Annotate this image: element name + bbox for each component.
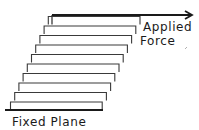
layer-stack <box>11 15 141 110</box>
shear-layer <box>32 55 124 63</box>
shear-layer <box>23 74 115 82</box>
shear-layer <box>44 26 136 34</box>
shear-diagram: Applied Force Fixed Plane <box>0 0 199 130</box>
applied-force-arrow <box>52 11 192 19</box>
shear-layer <box>11 102 103 110</box>
shear-layer <box>48 17 140 25</box>
shear-layer <box>36 45 128 53</box>
fixed-plane-label: Fixed Plane <box>12 116 86 128</box>
shear-layer <box>40 36 132 44</box>
applied-force-label-line1: Applied <box>143 21 192 33</box>
applied-force-label-line2: Force <box>140 35 175 47</box>
shear-layer <box>27 64 119 72</box>
shear-layer <box>15 93 107 101</box>
shear-layer <box>19 83 111 91</box>
stray-mark <box>185 47 187 49</box>
